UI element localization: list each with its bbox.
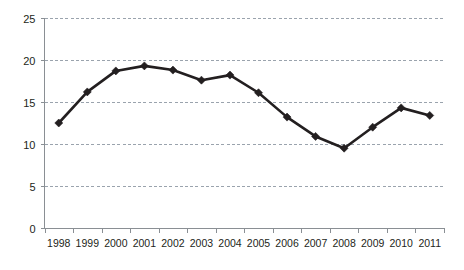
data-point-2003	[197, 76, 205, 84]
x-tick-label: 1999	[76, 237, 100, 249]
x-tick-label: 2008	[332, 237, 356, 249]
x-tick-label: 2007	[304, 237, 328, 249]
y-tick-label: 0	[29, 223, 35, 235]
y-tick-label: 20	[23, 55, 35, 67]
y-tick-label: 10	[23, 139, 35, 151]
y-tick-label: 25	[23, 13, 35, 25]
x-tick-label: 2010	[390, 237, 414, 249]
x-tick-label: 1998	[47, 237, 71, 249]
x-tick-label: 2004	[218, 237, 242, 249]
gridlines	[45, 19, 445, 187]
data-point-2002	[169, 66, 177, 74]
y-axis-tick-labels: 0510152025	[23, 13, 35, 235]
x-tick-label: 2001	[133, 237, 157, 249]
y-tick-label: 5	[29, 181, 35, 193]
x-tick-label: 2005	[247, 237, 271, 249]
data-point-2001	[140, 62, 148, 70]
x-axis-tick-labels: 1998199920002001200220032004200520062007…	[47, 237, 441, 249]
x-tick-label: 2009	[361, 237, 385, 249]
x-tick-label: 2011	[418, 237, 441, 249]
y-tick-label: 15	[23, 97, 35, 109]
line-chart: 0510152025 19981999200020012002200320042…	[0, 0, 464, 270]
x-tick-label: 2002	[161, 237, 185, 249]
axes	[45, 18, 445, 229]
chart-canvas: 0510152025 19981999200020012002200320042…	[0, 0, 464, 270]
data-point-2011	[426, 111, 434, 119]
x-tick-label: 2000	[104, 237, 128, 249]
x-tick-label: 2006	[275, 237, 299, 249]
x-tick-label: 2003	[190, 237, 214, 249]
series-line-path	[59, 66, 430, 148]
